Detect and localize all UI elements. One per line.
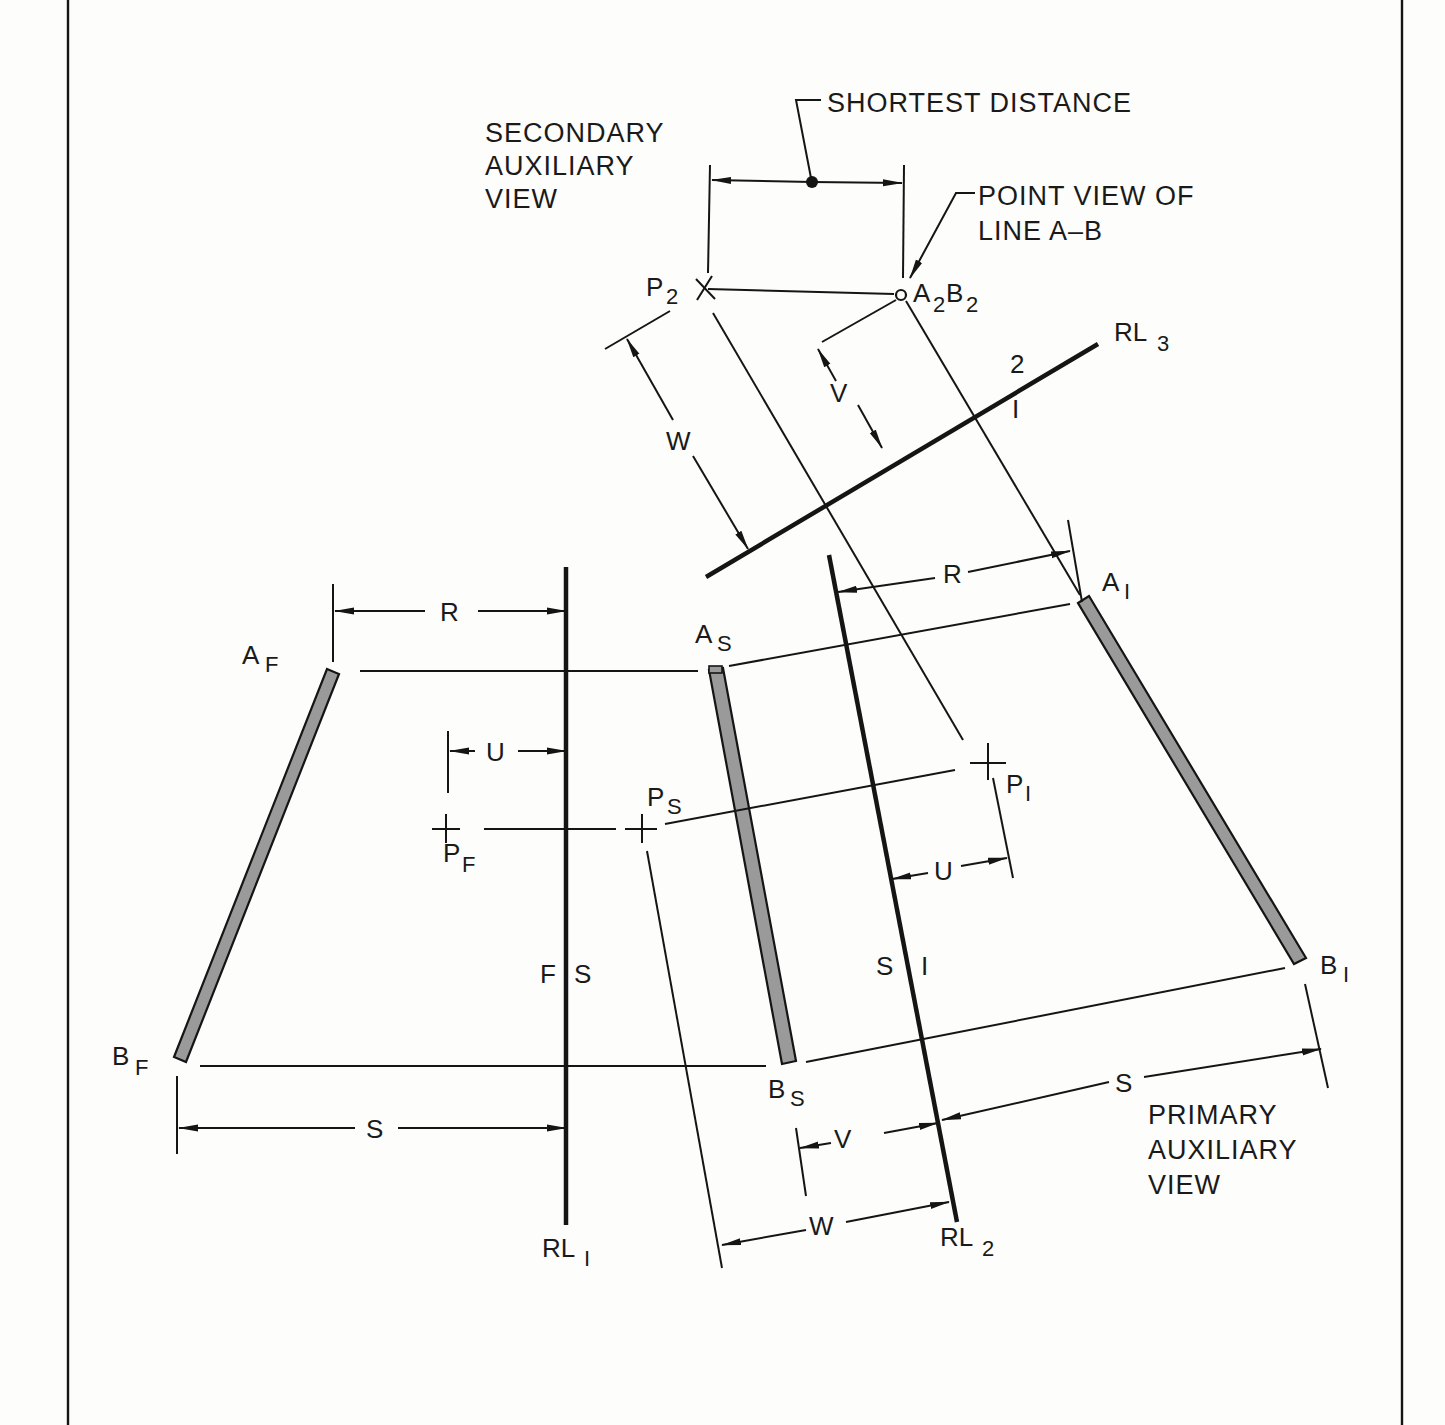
extension-line-v-secondary bbox=[822, 300, 896, 342]
label-rl2: RL 2 bbox=[940, 1222, 994, 1261]
label-b-side: B S bbox=[768, 1074, 805, 1111]
shortest-distance-label: SHORTEST DISTANCE bbox=[827, 88, 1132, 118]
svg-text:2: 2 bbox=[666, 284, 678, 309]
dim-u-primary: U bbox=[934, 856, 953, 886]
dim-w-secondary: W bbox=[666, 426, 691, 456]
dim-u-front: U bbox=[486, 737, 505, 767]
label-p-primary: P I bbox=[1006, 769, 1031, 806]
svg-text:I: I bbox=[1124, 579, 1130, 604]
rl2-side-1: I bbox=[921, 951, 928, 981]
line-ab-side-rod bbox=[709, 668, 796, 1064]
svg-text:A: A bbox=[695, 619, 713, 649]
point-a2b2-marker bbox=[896, 290, 906, 300]
line-ab-primary-rod bbox=[1078, 596, 1306, 964]
svg-text:A: A bbox=[242, 640, 260, 670]
side-view bbox=[625, 604, 1285, 1268]
svg-text:S: S bbox=[790, 1086, 805, 1111]
point-view-leader bbox=[910, 193, 958, 278]
point-view-label-line1: POINT VIEW OF bbox=[978, 181, 1195, 211]
secondary-view-caption-line2: AUXILIARY bbox=[485, 151, 635, 181]
svg-text:2: 2 bbox=[933, 292, 945, 317]
label-rl3: RL 3 bbox=[1114, 317, 1169, 356]
dim-v-side: V bbox=[834, 1124, 852, 1154]
label-b-front: B F bbox=[112, 1041, 148, 1080]
svg-text:P: P bbox=[647, 782, 664, 812]
svg-text:2: 2 bbox=[982, 1236, 994, 1261]
rl3-side-1: I bbox=[1012, 394, 1019, 424]
svg-text:RL: RL bbox=[1114, 317, 1147, 347]
label-rl1: RL I bbox=[542, 1233, 590, 1271]
dim-r-front: R bbox=[440, 597, 459, 627]
svg-text:I: I bbox=[584, 1246, 590, 1271]
svg-text:B: B bbox=[1320, 950, 1337, 980]
shortest-distance-line bbox=[708, 289, 894, 294]
line-ab-front-rod bbox=[174, 669, 339, 1062]
svg-text:RL: RL bbox=[542, 1233, 575, 1263]
primary-view-caption-line1: PRIMARY bbox=[1148, 1100, 1278, 1130]
shortest-distance-leader bbox=[796, 100, 821, 178]
svg-text:RL: RL bbox=[940, 1222, 973, 1252]
svg-text:P: P bbox=[646, 272, 663, 302]
dim-s-primary: S bbox=[1115, 1068, 1132, 1098]
label-a-front: A F bbox=[242, 640, 278, 677]
svg-text:I: I bbox=[1025, 781, 1031, 806]
rl1-side-s: S bbox=[574, 959, 591, 989]
rl3-side-2: 2 bbox=[1010, 349, 1024, 379]
svg-text:3: 3 bbox=[1157, 331, 1169, 356]
extension-line-w-secondary bbox=[605, 311, 670, 349]
label-b-primary: B I bbox=[1320, 950, 1349, 987]
label-a2b2: A 2 B 2 bbox=[913, 278, 978, 317]
svg-text:B: B bbox=[112, 1041, 129, 1071]
reference-line-rl2 bbox=[829, 555, 957, 1222]
svg-text:F: F bbox=[462, 852, 475, 877]
secondary-view-caption-line3: VIEW bbox=[485, 184, 558, 214]
rl1-side-f: F bbox=[540, 959, 556, 989]
extension-line-v-side bbox=[796, 1128, 806, 1196]
svg-text:B: B bbox=[946, 278, 963, 308]
primary-view-caption-line2: AUXILIARY bbox=[1148, 1135, 1298, 1165]
extension-line-w-side bbox=[647, 851, 722, 1268]
primary-view-caption-line3: VIEW bbox=[1148, 1170, 1221, 1200]
svg-text:S: S bbox=[667, 794, 682, 819]
dim-w-side: W bbox=[809, 1211, 834, 1241]
svg-text:B: B bbox=[768, 1074, 785, 1104]
svg-text:F: F bbox=[135, 1055, 148, 1080]
label-a-primary: A I bbox=[1102, 567, 1130, 604]
svg-text:F: F bbox=[265, 652, 278, 677]
projector-ab-primary-secondary bbox=[906, 301, 1080, 595]
extension-line-r-primary bbox=[1068, 520, 1082, 602]
secondary-view-caption-line1: SECONDARY bbox=[485, 118, 665, 148]
dim-r-primary: R bbox=[943, 559, 962, 589]
svg-text:A: A bbox=[1102, 567, 1120, 597]
point-view-label-line2: LINE A–B bbox=[978, 216, 1103, 246]
shortest-distance-dot bbox=[806, 176, 818, 188]
projector-p-side-primary bbox=[665, 770, 955, 824]
reference-line-rl3 bbox=[706, 344, 1098, 577]
dim-s-front: S bbox=[366, 1114, 383, 1144]
primary-auxiliary-view bbox=[713, 301, 1328, 1120]
svg-text:S: S bbox=[717, 631, 732, 656]
label-p-side: P S bbox=[647, 782, 682, 819]
label-a-side: A S bbox=[695, 619, 732, 656]
rl2-side-s: S bbox=[876, 951, 893, 981]
label-p-front: P F bbox=[443, 838, 475, 877]
svg-text:P: P bbox=[443, 838, 460, 868]
svg-text:I: I bbox=[1343, 962, 1349, 987]
svg-text:A: A bbox=[913, 278, 931, 308]
svg-text:P: P bbox=[1006, 769, 1023, 799]
label-p-secondary: P 2 bbox=[646, 272, 678, 309]
descriptive-geometry-diagram: SECONDARY AUXILIARY VIEW SHORTEST DISTAN… bbox=[0, 0, 1445, 1425]
projector-b-side-primary bbox=[806, 968, 1285, 1062]
svg-text:2: 2 bbox=[966, 292, 978, 317]
projector-a-side-primary bbox=[729, 604, 1070, 666]
extension-line-s-primary bbox=[1305, 984, 1328, 1088]
dim-v-secondary: V bbox=[830, 378, 848, 408]
